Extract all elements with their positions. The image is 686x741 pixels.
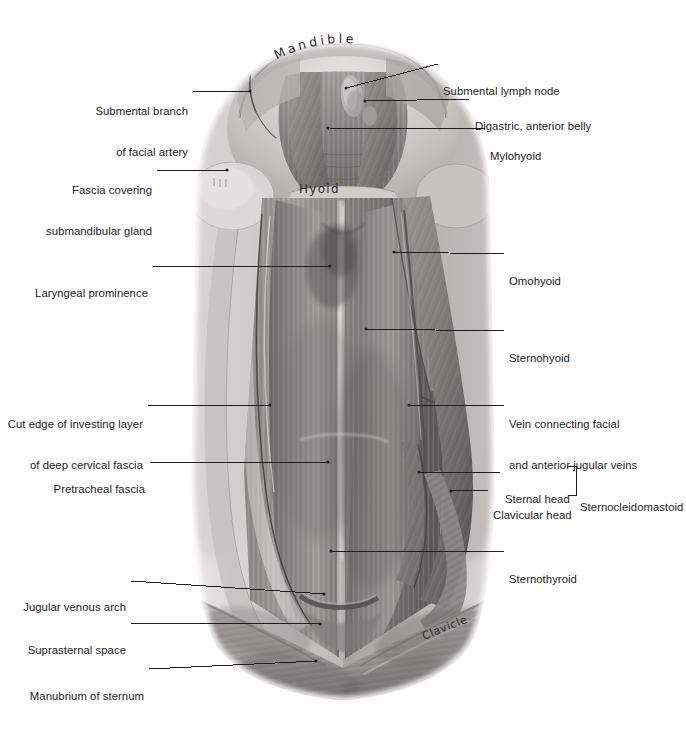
handwritten-hyoid: Hyoid — [299, 182, 340, 196]
label-line: Cut edge of investing layer — [8, 418, 143, 432]
label-omohyoid: Omohyoid — [509, 248, 561, 316]
label-sternocleidomastoid: Sternocleidomastoid — [580, 474, 683, 542]
label-sternohyoid: Sternohyoid — [509, 325, 570, 393]
label-manubrium-of-sternum: Manubrium of sternum — [30, 663, 144, 731]
label-line: Suprasternal space — [28, 644, 126, 658]
label-line: Sternocleidomastoid — [580, 501, 683, 515]
label-line: Jugular venous arch — [23, 601, 126, 615]
label-line: Sternohyoid — [509, 352, 570, 366]
label-line: Sternothyroid — [509, 573, 577, 587]
label-line: Submental branch — [95, 105, 188, 119]
label-line: Vein connecting facial — [509, 418, 637, 432]
label-line: Omohyoid — [509, 275, 561, 289]
label-line: Fascia covering — [46, 184, 152, 198]
label-line: submandibular gland — [46, 225, 152, 239]
anatomy-plate: Mandible Hyoid Clavicle Submental branch… — [0, 0, 686, 741]
label-clavicular-head: Clavicular head — [493, 482, 565, 550]
label-line: Manubrium of sternum — [30, 690, 144, 704]
label-pretracheal-fascia: Pretracheal fascia — [54, 456, 145, 524]
label-fascia-covering-submandibular-gland: Fascia covering submandibular gland — [46, 157, 152, 266]
label-line: Pretracheal fascia — [54, 483, 145, 497]
sternocleidomastoid-bracket — [568, 466, 577, 496]
label-mylohyoid: Mylohyoid — [490, 123, 541, 191]
label-line: Laryngeal prominence — [35, 287, 148, 301]
label-laryngeal-prominence: Laryngeal prominence — [35, 260, 148, 328]
label-sternothyroid: Sternothyroid — [509, 546, 577, 614]
label-line: Clavicular head — [493, 509, 565, 523]
label-line: Mylohyoid — [490, 150, 541, 164]
